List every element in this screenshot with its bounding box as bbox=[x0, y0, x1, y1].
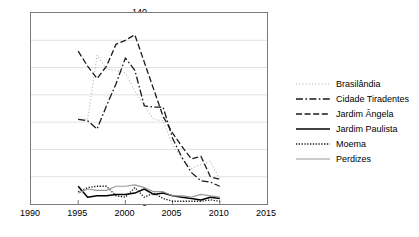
legend-label: Cidade Tiradentes bbox=[336, 94, 409, 104]
legend-item-5[interactable]: Perdizes bbox=[296, 151, 419, 166]
legend-item-4[interactable]: Moema bbox=[296, 136, 419, 151]
x-axis-tick-2000: 2000 bbox=[114, 208, 134, 218]
series-line-2 bbox=[78, 35, 220, 180]
legend-swatch-icon bbox=[296, 79, 330, 89]
legend-item-2[interactable]: Jardim Ângela bbox=[296, 106, 419, 121]
series-line-0 bbox=[78, 55, 220, 179]
legend-swatch-icon bbox=[296, 139, 330, 149]
chart-legend: BrasilândiaCidade TiradentesJardim Ângel… bbox=[296, 76, 419, 166]
legend-label: Jardim Paulista bbox=[336, 124, 398, 134]
series-lines bbox=[31, 13, 267, 204]
legend-item-3[interactable]: Jardim Paulista bbox=[296, 121, 419, 136]
chart-figure: 020406080100120140 199019952000200520102… bbox=[0, 0, 419, 237]
legend-swatch-icon bbox=[296, 94, 330, 104]
legend-swatch-icon bbox=[296, 124, 330, 134]
legend-label: Brasilândia bbox=[336, 79, 381, 89]
legend-item-1[interactable]: Cidade Tiradentes bbox=[296, 91, 419, 106]
x-axis-tick-2010: 2010 bbox=[209, 208, 229, 218]
legend-label: Perdizes bbox=[336, 154, 371, 164]
legend-swatch-icon bbox=[296, 109, 330, 119]
legend-label: Jardim Ângela bbox=[336, 109, 394, 119]
x-axis-tick-2015: 2015 bbox=[256, 208, 276, 218]
x-axis-tick-2005: 2005 bbox=[162, 208, 182, 218]
legend-item-0[interactable]: Brasilândia bbox=[296, 76, 419, 91]
legend-swatch-icon bbox=[296, 154, 330, 164]
legend-label: Moema bbox=[336, 139, 366, 149]
x-axis-tick-1990: 1990 bbox=[20, 208, 40, 218]
series-line-3 bbox=[78, 186, 220, 200]
x-axis-tick-1995: 1995 bbox=[67, 208, 87, 218]
plot-area bbox=[30, 12, 268, 205]
